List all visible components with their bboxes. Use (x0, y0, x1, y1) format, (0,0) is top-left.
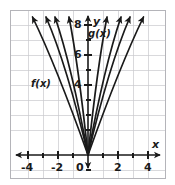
y-axis-label: y (93, 16, 100, 27)
y-tick-label-6: 6 (74, 49, 82, 60)
x-tick-label-zero: 0 (76, 162, 84, 173)
graph-figure: -4 -2 0 2 4 8 6 4 y x f(x) g(x) (0, 0, 175, 185)
x-tick-label-pos4: 4 (144, 162, 152, 173)
curve-label-f: f(x) (31, 79, 51, 89)
y-tick-label-4: 4 (74, 79, 82, 90)
x-axis-label: x (152, 139, 159, 150)
x-tick-label-pos2: 2 (114, 162, 122, 173)
curve-label-g: g(x) (88, 29, 111, 39)
x-tick-label-neg4: -4 (21, 162, 33, 173)
x-tick-label-neg2: -2 (51, 162, 63, 173)
y-tick-label-8: 8 (74, 19, 82, 30)
